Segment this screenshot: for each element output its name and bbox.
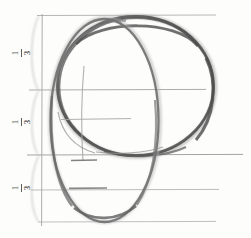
label-third-top-numerator: 1 — [11, 51, 21, 56]
label-third-top: 1 3 — [6, 40, 36, 66]
guide-line-mouth — [31, 189, 219, 190]
label-third-bottom: 1 3 — [6, 175, 36, 201]
pencil-drawing — [0, 0, 251, 238]
eye-line — [61, 119, 131, 120]
face-center-vertical-line — [82, 66, 84, 161]
label-third-middle-numerator: 1 — [11, 120, 21, 125]
label-third-middle-denominator: 3 — [22, 120, 32, 125]
vertical-measure-axis — [42, 14, 43, 226]
label-third-top-denominator: 3 — [22, 51, 32, 56]
label-third-middle: 1 3 — [6, 109, 36, 135]
sketch-canvas: 1 3 1 3 1 3 — [0, 0, 251, 238]
guide-line-chin — [38, 221, 216, 222]
label-third-bottom-numerator: 1 — [11, 186, 21, 191]
label-third-bottom-denominator: 3 — [22, 186, 32, 191]
